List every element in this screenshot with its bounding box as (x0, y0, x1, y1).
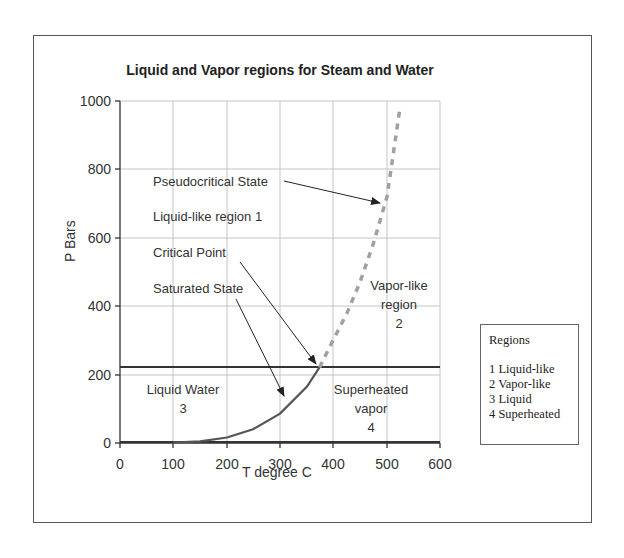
annotation-superheated: Superheated vapor 4 (326, 380, 416, 437)
x-tick: 200 (207, 456, 247, 472)
x-axis-label: T degree C (242, 464, 312, 480)
y-axis-label: P Bars (62, 220, 78, 262)
arrow-pseudocritical (284, 181, 380, 203)
vapor-like-line3: 2 (361, 314, 437, 333)
arrow-saturated (236, 299, 284, 396)
vapor-like-line2: region (361, 295, 437, 314)
superheated-line3: 4 (326, 418, 416, 437)
legend-entry: 4 Superheated (489, 407, 578, 422)
arrow-critical-point (240, 262, 316, 364)
x-tick: 0 (100, 456, 140, 472)
legend-title: Regions (489, 333, 578, 348)
x-tick: 500 (367, 456, 407, 472)
superheated-line1: Superheated (326, 380, 416, 399)
plot-area (0, 0, 624, 558)
y-tick: 400 (71, 298, 111, 314)
vapor-like-line1: Vapor-like (361, 276, 437, 295)
legend-entry: 3 Liquid (489, 392, 578, 407)
superheated-line2: vapor (326, 399, 416, 418)
legend: Regions 1 Liquid-like 2 Vapor-like 3 Liq… (480, 324, 579, 445)
annotation-saturated-state: Saturated State (153, 281, 243, 296)
annotation-pseudocritical: Pseudocritical State (153, 174, 268, 189)
legend-entry: 1 Liquid-like (489, 362, 578, 377)
annotation-critical-point: Critical Point (153, 245, 226, 260)
annotation-liquid-water: Liquid Water 3 (136, 380, 230, 418)
y-tick: 1000 (71, 93, 111, 109)
y-tick: 200 (71, 367, 111, 383)
annotation-vapor-like: Vapor-like region 2 (361, 276, 437, 333)
liquid-water-line1: Liquid Water (136, 380, 230, 399)
y-tick: 0 (71, 435, 111, 451)
x-tick: 400 (313, 456, 353, 472)
y-tick: 800 (71, 161, 111, 177)
liquid-water-line2: 3 (136, 399, 230, 418)
annotation-liquid-like: Liquid-like region 1 (153, 209, 262, 224)
x-tick: 600 (420, 456, 460, 472)
x-tick: 100 (153, 456, 193, 472)
legend-entry: 2 Vapor-like (489, 377, 578, 392)
